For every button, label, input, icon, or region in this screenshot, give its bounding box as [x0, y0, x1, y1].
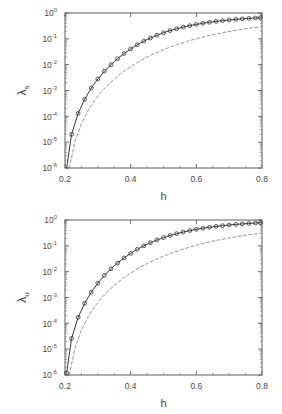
y-tick-exponent: -3 [52, 85, 57, 91]
y-tick-label: 10-6 [42, 369, 57, 380]
y-tick-exponent: 0 [54, 214, 57, 220]
x-tick-label: 0.4 [125, 381, 137, 391]
y-tick-label: 10-6 [42, 162, 57, 173]
x-tick-label: 0.8 [256, 174, 268, 184]
x-tick-label: 0.4 [125, 174, 137, 184]
plot-lambda-u: 10010-110-210-310-410-510-60.20.40.60.8h… [0, 207, 282, 414]
y-tick-exponent: -5 [52, 136, 57, 142]
x-axis-label: h [160, 397, 166, 409]
y-tick-exponent: -1 [52, 240, 57, 246]
y-tick-label: 100 [44, 214, 57, 225]
y-tick-label: 10-3 [42, 292, 57, 303]
curve-solid [67, 223, 261, 373]
y-axis-label-subscript: u [22, 292, 31, 296]
y-tick-exponent: -4 [52, 318, 58, 324]
x-tick-label: 0.6 [190, 174, 202, 184]
x-axis-label: h [160, 190, 166, 202]
y-tick-exponent: -6 [52, 162, 57, 168]
y-tick-exponent: -3 [52, 292, 57, 298]
y-tick-label: 10-5 [42, 343, 57, 354]
plot-frame [65, 13, 262, 168]
y-axis-label-subscript: s [22, 86, 31, 90]
y-tick-exponent: -2 [52, 266, 57, 272]
curve-dashed [69, 27, 260, 168]
figure-container: 10010-110-210-310-410-510-60.20.40.60.8h… [0, 0, 282, 414]
curve-solid [67, 18, 261, 168]
y-axis-label-symbol: λs [15, 86, 31, 96]
y-tick-label: 10-1 [42, 240, 57, 251]
y-tick-label: 10-5 [42, 136, 57, 147]
plot-frame [65, 220, 262, 375]
y-tick-exponent: -1 [52, 33, 57, 39]
y-axis-label: λs [15, 86, 31, 96]
x-tick-label: 0.8 [256, 381, 268, 391]
y-axis-label: λu [15, 292, 31, 302]
y-tick-exponent: -6 [52, 369, 57, 375]
y-tick-exponent: -5 [52, 343, 57, 349]
y-tick-exponent: 0 [54, 7, 57, 13]
plot-lambda-s: 10010-110-210-310-410-510-60.20.40.60.8h… [0, 0, 282, 207]
y-tick-exponent: -4 [52, 111, 58, 117]
y-tick-label: 100 [44, 7, 57, 18]
panel-lambda-s: 10010-110-210-310-410-510-60.20.40.60.8h… [0, 0, 282, 207]
x-tick-label: 0.2 [59, 381, 71, 391]
y-tick-label: 10-2 [42, 59, 57, 70]
y-tick-label: 10-2 [42, 266, 57, 277]
y-tick-label: 10-4 [42, 111, 57, 122]
y-tick-label: 10-4 [42, 318, 57, 329]
curve-dashed [69, 233, 260, 375]
y-tick-label: 10-1 [42, 33, 57, 44]
x-tick-label: 0.2 [59, 174, 71, 184]
y-tick-label: 10-3 [42, 85, 57, 96]
panel-lambda-u: 10010-110-210-310-410-510-60.20.40.60.8h… [0, 207, 282, 414]
y-axis-label-symbol: λu [15, 292, 31, 302]
y-tick-exponent: -2 [52, 59, 57, 65]
x-tick-label: 0.6 [190, 381, 202, 391]
